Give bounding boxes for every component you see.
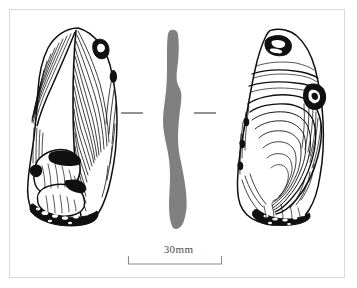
view-ventral: [237, 29, 326, 225]
section-silhouette: [163, 30, 187, 229]
figure-root: 30mm: [0, 0, 357, 288]
view-section: [163, 30, 187, 229]
scale-bar: [128, 256, 222, 264]
view-dorsal: [28, 28, 117, 226]
artifact-drawing: [0, 0, 357, 288]
